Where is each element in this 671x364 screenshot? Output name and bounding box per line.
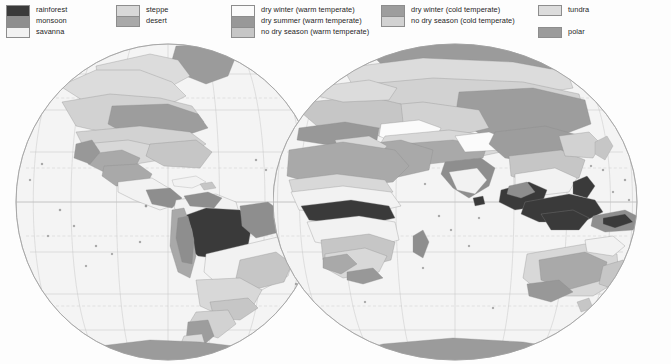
world-climate-map xyxy=(0,40,671,364)
legend-label-steppe: steppe xyxy=(146,4,169,15)
legend-label-no-dry-season-warm-temperate: no dry season (warm temperate) xyxy=(261,26,369,37)
legend-label-stack: dry winter (warm temperate)dry summer (w… xyxy=(261,4,369,37)
legend-label-savanna: savanna xyxy=(36,26,67,37)
legend-swatch-savanna[interactable] xyxy=(6,27,30,38)
legend-label-monsoon: monsoon xyxy=(36,15,67,26)
legend-swatch-dry-summer-warm-temperate[interactable] xyxy=(231,16,255,27)
legend-swatch-monsoon[interactable] xyxy=(6,16,30,27)
legend-label-dry-winter-cold-temperate: dry winter (cold temperate) xyxy=(411,4,515,15)
legend-swatch-stack xyxy=(538,27,562,38)
legend-swatch-steppe[interactable] xyxy=(116,5,140,16)
legend-swatch-polar[interactable] xyxy=(538,27,562,38)
legend-swatch-stack xyxy=(538,5,562,16)
legend-label-stack: steppedesert xyxy=(146,4,169,26)
legend-swatch-tundra[interactable] xyxy=(538,5,562,16)
legend-swatch-no-dry-season-warm-temperate[interactable] xyxy=(231,27,255,38)
legend-label-polar: polar xyxy=(568,26,585,37)
legend-swatch-stack xyxy=(116,5,140,27)
eastern-hemisphere-globe xyxy=(273,40,671,364)
legend-label-no-dry-season-cold-temperate: no dry season (cold temperate) xyxy=(411,15,515,26)
legend-swatch-stack xyxy=(231,5,255,38)
eastern-hemisphere-svg xyxy=(273,40,671,364)
legend-label-rainforest: rainforest xyxy=(36,4,67,15)
legend-swatch-rainforest[interactable] xyxy=(6,5,30,16)
legend-swatch-no-dry-season-cold-temperate[interactable] xyxy=(381,16,405,27)
legend-swatch-desert[interactable] xyxy=(116,16,140,27)
legend-swatch-dry-winter-cold-temperate[interactable] xyxy=(381,5,405,16)
legend-label-stack: polar xyxy=(568,26,585,37)
legend-label-stack: tundra xyxy=(568,4,589,15)
legend-label-dry-summer-warm-temperate: dry summer (warm temperate) xyxy=(261,15,369,26)
legend-swatch-stack xyxy=(6,5,30,38)
legend-swatch-dry-winter-warm-temperate[interactable] xyxy=(231,5,255,16)
legend-label-stack: rainforestmonsoonsavanna xyxy=(36,4,67,37)
legend-swatch-stack xyxy=(381,5,405,27)
legend-label-tundra: tundra xyxy=(568,4,589,15)
climate-map-page: rainforestmonsoonsavannasteppedesertdry … xyxy=(0,0,671,364)
legend-label-stack: dry winter (cold temperate)no dry season… xyxy=(411,4,515,26)
legend-label-desert: desert xyxy=(146,15,169,26)
legend-label-dry-winter-warm-temperate: dry winter (warm temperate) xyxy=(261,4,369,15)
